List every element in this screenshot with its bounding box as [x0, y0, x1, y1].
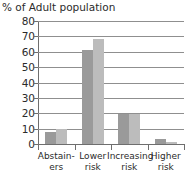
x-axis-category-label-line1: Abstain- [38, 151, 75, 161]
plot-area [38, 21, 184, 144]
x-axis-category-label-line1: Higher [151, 151, 181, 161]
y-axis-tick-marks [0, 21, 38, 145]
bar-group [111, 21, 148, 144]
bar [93, 39, 104, 144]
bar [118, 114, 129, 144]
x-axis-category-label-line1: Lower [79, 151, 106, 161]
chart-title: % of Adult population [2, 0, 115, 14]
bar [82, 50, 93, 144]
x-axis-category-label-line2: risk [144, 162, 189, 173]
x-axis-tick-mark [75, 145, 76, 150]
bar-chart-figure: % of Adult population 01020304050607080 … [0, 0, 191, 182]
bar-series-container [38, 21, 184, 144]
bar [56, 129, 67, 144]
x-axis-tick-mark [111, 145, 112, 150]
x-axis-tick-mark [184, 145, 185, 150]
bar-group [148, 21, 185, 144]
bar-group [38, 21, 75, 144]
x-axis-tick-mark [38, 145, 39, 150]
bar-group [75, 21, 112, 144]
bar [129, 114, 140, 144]
bar [45, 132, 56, 144]
x-axis-tick-mark [148, 145, 149, 150]
x-axis-category-label: Higherrisk [144, 151, 189, 172]
